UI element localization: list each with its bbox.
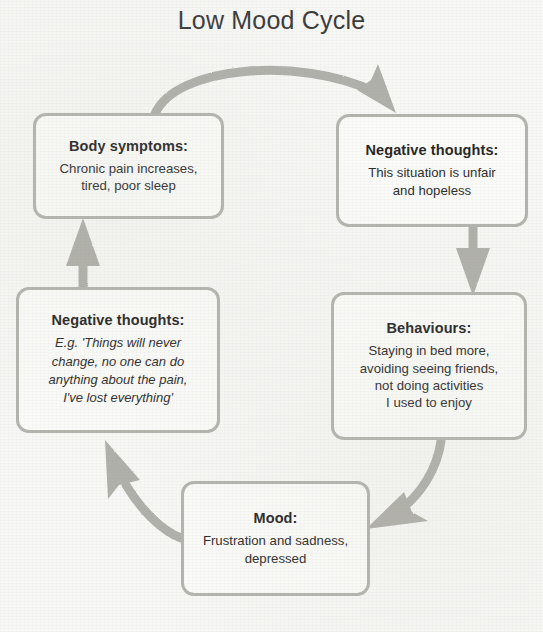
node-negative-thoughts-top[interactable]: Negative thoughts: This situation is unf… [336, 114, 528, 227]
arrow-negative-thoughts-left-to-body-symptoms [66, 218, 100, 288]
node-behaviours[interactable]: Behaviours: Staying in bed more, avoidin… [331, 292, 527, 440]
arrow-behaviours-to-mood [366, 441, 441, 529]
node-body: Staying in bed more, avoiding seeing fri… [360, 342, 499, 412]
node-body: E.g. 'Things will never change, no one c… [49, 334, 188, 408]
node-body: This situation is unfair and hopeless [368, 164, 496, 199]
node-body-symptoms[interactable]: Body symptoms: Chronic pain increases, t… [33, 113, 224, 219]
arrow-body-symptoms-to-negative-thoughts [155, 64, 396, 114]
arrow-negative-thoughts-to-behaviours [456, 226, 490, 296]
node-title: Behaviours: [387, 320, 472, 336]
node-body: Frustration and sadness, depressed [203, 532, 348, 567]
node-title: Negative thoughts: [51, 312, 184, 328]
node-mood[interactable]: Mood: Frustration and sadness, depressed [181, 481, 370, 596]
node-title: Mood: [254, 510, 298, 526]
arrow-mood-to-negative-thoughts-left [105, 440, 181, 538]
node-negative-thoughts-left[interactable]: Negative thoughts: E.g. 'Things will nev… [16, 287, 220, 433]
node-title: Negative thoughts: [365, 142, 498, 158]
page-title: Low Mood Cycle [0, 6, 543, 35]
node-title: Body symptoms: [69, 138, 188, 154]
node-body: Chronic pain increases, tired, poor slee… [60, 160, 198, 195]
